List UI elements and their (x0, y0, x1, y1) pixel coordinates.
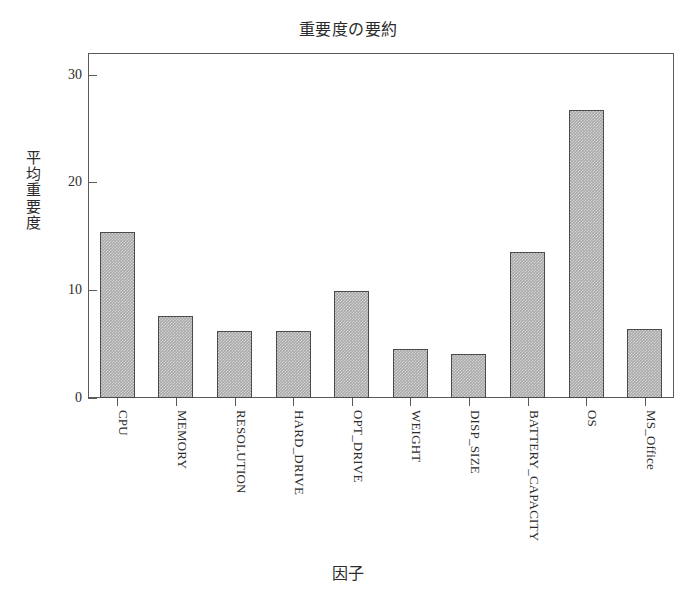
bar-memory (158, 316, 193, 398)
x-tick-mark (235, 398, 236, 406)
x-tick-label: BATTERY_CAPACITY (526, 410, 542, 541)
x-tick-label: OPT_DRIVE (350, 410, 366, 483)
bar-battery_capacity (510, 252, 545, 398)
x-tick-label: HARD_DRIVE (291, 410, 307, 495)
bar-series (88, 53, 674, 398)
x-tick-mark (352, 398, 353, 406)
y-axis-title: 平均重要度 (22, 150, 44, 231)
x-tick-mark (586, 398, 587, 406)
y-tick-label: 0 (52, 390, 82, 406)
y-tick-label: 10 (52, 282, 82, 298)
x-tick-label: DISP_SIZE (467, 410, 483, 474)
bar-resolution (217, 331, 252, 398)
bar-opt_drive (334, 291, 369, 398)
x-tick-mark (410, 398, 411, 406)
x-tick-mark (469, 398, 470, 406)
bar-weight (393, 349, 428, 398)
x-tick-label: RESOLUTION (233, 410, 249, 494)
chart-title: 重要度の要約 (0, 16, 696, 40)
bar-ms_office (627, 329, 662, 398)
bar-cpu (100, 232, 135, 398)
x-tick-mark (176, 398, 177, 406)
x-tick-label: OS (584, 410, 600, 427)
x-tick-mark (645, 398, 646, 406)
x-tick-mark (528, 398, 529, 406)
chart-figure: 重要度の要約 平均重要度 0102030 CPUMEMORYRESOLUTION… (0, 0, 696, 608)
x-tick-label: WEIGHT (408, 410, 424, 462)
y-tick-mark (88, 398, 97, 399)
y-tick-label: 20 (52, 174, 82, 190)
x-tick-label: MS_Office (643, 410, 659, 470)
bar-hard_drive (276, 331, 311, 398)
x-tick-mark (293, 398, 294, 406)
x-tick-label: CPU (115, 410, 131, 436)
x-tick-mark (117, 398, 118, 406)
x-axis-title: 因子 (0, 560, 696, 584)
bar-os (569, 110, 604, 398)
y-tick-label: 30 (52, 67, 82, 83)
x-tick-label: MEMORY (174, 410, 190, 469)
bar-disp_size (451, 354, 486, 398)
